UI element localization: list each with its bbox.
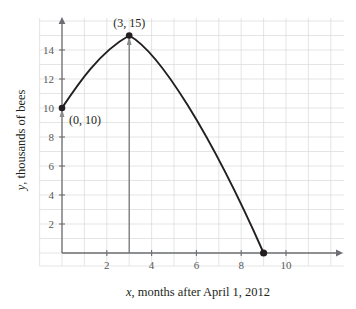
bee-population-graph: 2 4 6 8 10 2 4 6 8 10 12 14 [0,0,356,309]
x-tick-label-2: 2 [104,259,110,271]
x-axis-arrowhead [336,250,343,257]
population-curve [62,36,264,254]
grid-lines [40,18,344,266]
y-tick-label-8: 8 [49,131,55,143]
data-point-markers [59,32,268,256]
point-label-intercept: (0, 10) [69,113,101,127]
point-indicator-arrows [60,36,132,117]
y-axis-title: y, thousands of bees [14,90,28,193]
point-marker-9-0 [260,249,267,256]
chart-svg: 2 4 6 8 10 2 4 6 8 10 12 14 [0,0,356,309]
y-tick-label-2: 2 [49,218,55,230]
x-tick-label-10: 10 [281,259,293,271]
y-tick-label-6: 6 [49,160,55,172]
y-tick-label-4: 4 [49,189,55,201]
point-marker-3-15 [126,32,133,39]
x-axis-title-text: , months after April 1, 2012 [132,285,271,299]
y-tick-label-12: 12 [43,73,54,85]
x-axis-title: x, months after April 1, 2012 [125,285,270,299]
y-axis-arrowhead [59,17,66,24]
x-tick-label-6: 6 [194,259,200,271]
point-label-vertex: (3, 15) [113,16,145,30]
y-tick-label-14: 14 [43,44,55,56]
y-tick-label-10: 10 [43,102,55,114]
x-tick-label-4: 4 [149,259,155,271]
y-axis-title-text: , thousands of bees [14,90,28,185]
point-marker-0-10 [59,105,66,112]
x-tick-label-8: 8 [238,259,244,271]
